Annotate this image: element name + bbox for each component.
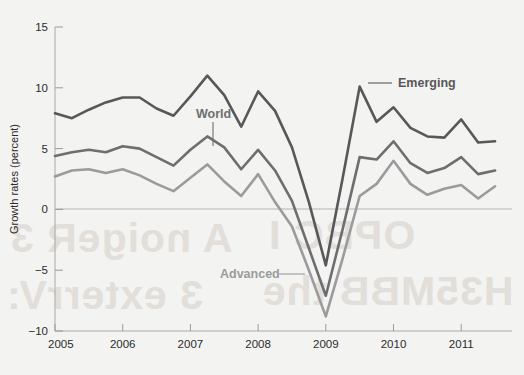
series-annotations: WorldEmergingAdvanced — [196, 76, 456, 281]
annotation-label-world: World — [196, 107, 231, 121]
x-tick-label: 2008 — [245, 338, 271, 350]
x-tick-label: 2005 — [48, 338, 74, 350]
y-tick-label: −10 — [28, 325, 48, 337]
x-axis-ticks: 2005200620072008200920102011 — [48, 324, 474, 350]
annotation-label-advanced: Advanced — [220, 267, 280, 281]
y-tick-label: −5 — [35, 264, 48, 276]
y-axis-ticks: 151050−5−10 — [28, 21, 63, 337]
x-tick-label: 2007 — [178, 338, 204, 350]
y-tick-label: 0 — [42, 203, 48, 215]
series-line-advanced — [55, 161, 495, 317]
growth-rates-line-chart: 151050−5−10 2005200620072008200920102011… — [0, 0, 524, 375]
y-tick-label: 5 — [42, 143, 48, 155]
x-tick-label: 2011 — [449, 338, 474, 350]
y-axis-title: Growth rates (percent) — [8, 124, 20, 234]
annotation-label-emerging: Emerging — [398, 76, 456, 90]
x-tick-label: 2009 — [313, 338, 339, 350]
x-tick-label: 2010 — [381, 338, 407, 350]
x-tick-label: 2006 — [110, 338, 136, 350]
y-tick-label: 10 — [35, 82, 48, 94]
y-tick-label: 15 — [35, 21, 48, 33]
chart-axes — [55, 27, 512, 331]
